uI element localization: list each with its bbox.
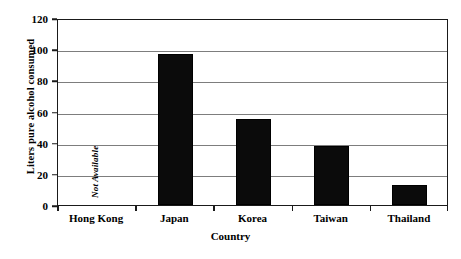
x-tick-mark-4 bbox=[370, 206, 372, 211]
bar-japan bbox=[158, 54, 193, 205]
x-tick-mark-3 bbox=[292, 206, 294, 211]
x-category-label-hong-kong: Hong Kong bbox=[69, 212, 123, 224]
x-category-label-japan: Japan bbox=[160, 212, 189, 224]
gridline-100 bbox=[58, 51, 447, 52]
x-category-label-taiwan: Taiwan bbox=[313, 212, 347, 224]
y-tick-label-60: 60 bbox=[37, 107, 48, 119]
x-tick-mark-0 bbox=[57, 206, 59, 211]
y-tick-label-0: 0 bbox=[43, 200, 49, 212]
y-tick-label-80: 80 bbox=[37, 75, 48, 87]
not-available-annotation: Not Available bbox=[90, 146, 100, 198]
plot-area bbox=[57, 19, 448, 206]
x-axis-title: Country bbox=[0, 230, 461, 242]
y-tick-label-100: 100 bbox=[32, 44, 49, 56]
y-tick-label-40: 40 bbox=[37, 138, 48, 150]
y-tick-label-20: 20 bbox=[37, 169, 48, 181]
x-tick-mark-1 bbox=[135, 206, 137, 211]
y-tick-label-120: 120 bbox=[32, 13, 49, 25]
x-tick-mark-5 bbox=[447, 206, 449, 211]
bar-taiwan bbox=[314, 146, 349, 205]
x-category-label-korea: Korea bbox=[238, 212, 267, 224]
gridline-80 bbox=[58, 82, 447, 83]
bar-chart: Liters pure alcohol consumed 0 20 40 60 … bbox=[0, 0, 461, 259]
bar-thailand bbox=[392, 185, 427, 205]
y-axis-ticks: 0 20 40 60 80 100 120 bbox=[0, 0, 57, 259]
bar-korea bbox=[236, 119, 271, 205]
gridline-60 bbox=[58, 114, 447, 115]
x-tick-mark-2 bbox=[213, 206, 215, 211]
x-category-label-thailand: Thailand bbox=[387, 212, 430, 224]
